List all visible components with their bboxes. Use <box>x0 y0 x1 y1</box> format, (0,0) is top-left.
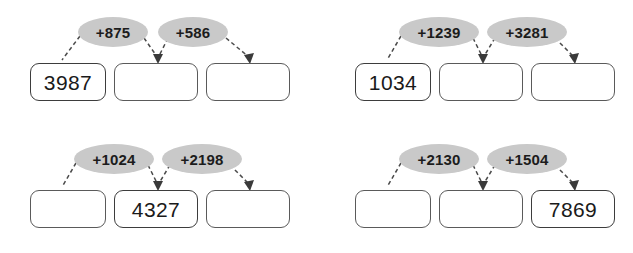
number-box-value: 4327 <box>132 199 180 220</box>
operation-label: +586 <box>176 25 211 40</box>
operation-bubble: +1239 <box>399 17 479 47</box>
problem-group: 4327 +1024 +2198 <box>18 135 318 253</box>
problem-group: 1034 +1239 +3281 <box>343 8 633 128</box>
box-row: 7869 +2130 +1504 <box>343 135 633 253</box>
operation-bubble: +586 <box>158 17 228 47</box>
worksheet-canvas: 3987 +875 +586 <box>0 0 633 253</box>
number-box[interactable] <box>439 63 523 101</box>
operation-bubble: +1504 <box>487 144 567 174</box>
number-box-value: 7869 <box>549 199 597 220</box>
number-box[interactable] <box>114 63 198 101</box>
operation-label: +1239 <box>417 25 460 40</box>
operation-bubble: +3281 <box>487 17 567 47</box>
operation-label: +2198 <box>180 152 223 167</box>
number-box[interactable]: 3987 <box>30 63 106 101</box>
problem-group: 3987 +875 +586 <box>18 8 318 128</box>
number-box[interactable]: 4327 <box>114 190 198 228</box>
operation-bubble: +1024 <box>74 144 154 174</box>
number-box[interactable] <box>206 63 290 101</box>
problem-group: 7869 +2130 +1504 <box>343 135 633 253</box>
box-row: 1034 +1239 +3281 <box>343 8 633 128</box>
operation-label: +2130 <box>417 152 460 167</box>
operation-label: +1504 <box>505 152 548 167</box>
number-box[interactable] <box>206 190 290 228</box>
operation-bubble: +875 <box>78 17 148 47</box>
number-box-value: 1034 <box>369 72 417 93</box>
number-box-value: 3987 <box>44 72 92 93</box>
box-row: 3987 +875 +586 <box>18 8 318 128</box>
operation-bubble: +2130 <box>399 144 479 174</box>
number-box[interactable] <box>439 190 523 228</box>
operation-label: +1024 <box>92 152 135 167</box>
box-row: 4327 +1024 +2198 <box>18 135 318 253</box>
number-box[interactable] <box>355 190 431 228</box>
number-box[interactable]: 7869 <box>531 190 615 228</box>
operation-label: +875 <box>96 25 131 40</box>
number-box[interactable] <box>30 190 106 228</box>
operation-label: +3281 <box>505 25 548 40</box>
number-box[interactable] <box>531 63 615 101</box>
operation-bubble: +2198 <box>162 144 242 174</box>
number-box[interactable]: 1034 <box>355 63 431 101</box>
